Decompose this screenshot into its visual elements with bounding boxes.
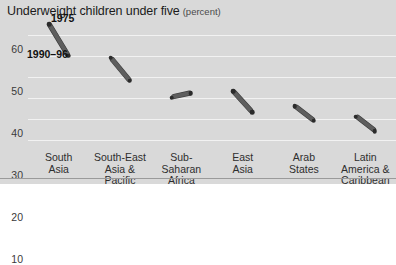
gridline: 20 (28, 119, 396, 120)
x-axis-label-line: Asia (28, 164, 89, 176)
y-axis-tick-label: 20 (11, 211, 23, 223)
y-axis-tick-label: 10 (11, 253, 23, 265)
bottom-divider (0, 178, 396, 179)
x-axis-label-arab-states: ArabStates (273, 152, 334, 175)
data-point-start (108, 55, 113, 60)
data-point-start (170, 95, 175, 100)
x-axis-label-line: Latin (335, 152, 396, 164)
gridline: 60 (28, 35, 396, 36)
x-axis-label-south-asia: SouthAsia (28, 152, 89, 175)
data-point-end (311, 118, 316, 123)
x-axis-label-line: States (273, 164, 334, 176)
page-title: Underweight children under five (7, 4, 180, 18)
y-axis-tick-label: 50 (11, 85, 23, 97)
x-axis-label-line: Sub- (151, 152, 212, 164)
chart-subtitle: (percent) (183, 6, 221, 17)
data-point-start (231, 89, 236, 94)
x-axis-label-line: Asia & Pacific (89, 164, 150, 187)
x-axis-label-line: East (212, 152, 273, 164)
data-point-end (373, 129, 378, 134)
data-point-start (354, 114, 359, 119)
data-point-start (292, 104, 297, 109)
chart-figure: Underweight children under five(percent)… (0, 0, 396, 184)
y-axis-tick-label: 40 (11, 127, 23, 139)
plot-area: 605040302010 (28, 20, 396, 150)
gridline: 50 (28, 56, 396, 57)
x-axis-label-line: Arab (273, 152, 334, 164)
x-axis-label-latin-america-caribbean: LatinAmerica &Caribbean (335, 152, 396, 187)
x-axis-label-line: South-East (89, 152, 150, 164)
x-axis-label-line: Africa (151, 175, 212, 187)
chart-title-row: Underweight children under five(percent) (7, 1, 221, 19)
x-axis-label-east-asia: EastAsia (212, 152, 273, 175)
x-axis-label-south-east-asia-pacific: South-EastAsia & Pacific (89, 152, 150, 187)
gridline: 30 (28, 98, 396, 99)
legend-item-1975: 1975 (51, 12, 74, 24)
data-point-end (250, 110, 255, 115)
data-point-end (127, 79, 132, 84)
y-axis-tick-label: 30 (11, 169, 23, 181)
x-axis-label-line: Caribbean (335, 175, 396, 187)
gridline: 40 (28, 77, 396, 78)
legend-item-1990-96: 1990–96 (27, 48, 68, 60)
y-axis-tick-label: 60 (11, 43, 23, 55)
x-axis-label-line: Asia (212, 164, 273, 176)
x-axis-label-sub-saharan-africa: Sub-SaharanAfrica (151, 152, 212, 187)
data-point-end (189, 91, 194, 96)
gridline: 10 (28, 140, 396, 141)
x-axis-label-line: South (28, 152, 89, 164)
